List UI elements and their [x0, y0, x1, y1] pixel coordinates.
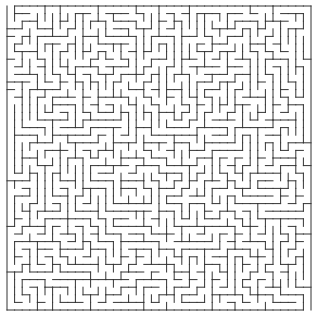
maze-walls [7, 6, 311, 310]
maze-board [0, 0, 320, 316]
maze-wall-path [7, 6, 311, 310]
